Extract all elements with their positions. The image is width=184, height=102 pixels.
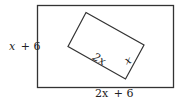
- inner-long-side-label: 2x: [89, 50, 108, 69]
- outer-height-label: x + 6: [9, 40, 40, 53]
- inner-short-side-label: x: [123, 53, 134, 68]
- outer-width-label: 2x + 6: [95, 87, 133, 100]
- inner-rotated-rectangle: [68, 13, 144, 80]
- diagram-canvas: x + 6 2x + 6 2x x: [0, 0, 184, 102]
- outer-rectangle: [38, 6, 174, 88]
